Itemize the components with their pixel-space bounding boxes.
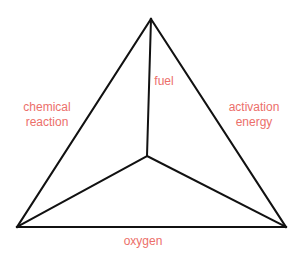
edge-center-right <box>147 156 286 227</box>
reaction-text: reaction <box>17 115 77 130</box>
label-chemical-reaction: chemical reaction <box>17 100 77 130</box>
oxygen-text: oxygen <box>118 234 168 249</box>
chemical-text: chemical <box>17 100 77 115</box>
edge-center-apex <box>147 19 151 156</box>
label-activation-energy: activation energy <box>222 100 286 130</box>
label-oxygen: oxygen <box>118 234 168 249</box>
energy-text: energy <box>222 115 286 130</box>
edge-center-left <box>17 156 147 227</box>
activation-text: activation <box>222 100 286 115</box>
label-fuel: fuel <box>152 74 176 89</box>
fuel-text: fuel <box>152 74 176 89</box>
fire-tetrahedron-diagram: fuel chemical reaction activation energy… <box>0 0 304 259</box>
